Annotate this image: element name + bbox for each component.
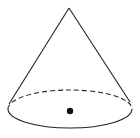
cone-left-slant-edge	[9, 8, 69, 104]
base-center-point	[67, 108, 73, 114]
cone-diagram	[0, 0, 140, 138]
cone-right-slant-edge	[69, 8, 130, 102]
cone-base-back-dashed-arc	[8, 90, 132, 109]
